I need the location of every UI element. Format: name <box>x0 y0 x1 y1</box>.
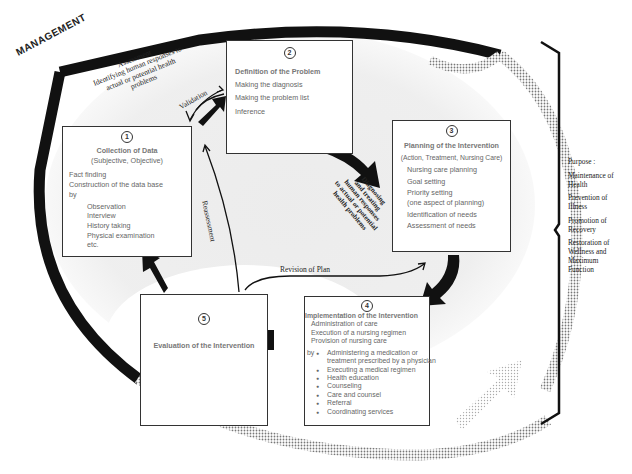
step-5-evaluation-of-intervention: 5 Evaluation of the Intervention <box>140 294 268 426</box>
method-item: Interview <box>87 211 185 221</box>
step-number-badge: 3 <box>397 125 506 137</box>
step-line: by <box>69 190 185 200</box>
step-line: Provision of nursing care <box>311 337 427 345</box>
step-title: Collection of Data <box>69 146 185 156</box>
step-line: Nursing care planning <box>407 165 506 175</box>
step-line: Goal setting <box>407 177 506 187</box>
step-number-badge: 1 <box>69 131 185 143</box>
step-line: Construction of the data base <box>69 180 185 190</box>
step-line: Inference <box>235 107 344 117</box>
method-item: etc. <box>87 240 185 250</box>
step-subtitle: (Action, Treatment, Nursing Care) <box>397 153 506 162</box>
step-line: Identification of needs <box>407 210 506 220</box>
step-line: (one aspect of planning) <box>407 198 506 208</box>
step-title: Planning of the Intervention <box>397 141 506 151</box>
implementation-methods-list: Administering a medication or treatment … <box>307 349 427 416</box>
method-bullet: Care and counsel <box>313 391 427 399</box>
step-number-badge: 4 <box>307 300 427 312</box>
method-bullet: Referral <box>313 399 427 407</box>
method-bullet: Counseling <box>313 382 427 390</box>
step-4-implementation-of-intervention: 4 Implementation of the Intervention Adm… <box>304 296 430 426</box>
purpose-list: Purpose : Maintenance of Health Preventi… <box>568 158 628 274</box>
method-bullet: Health education <box>313 374 427 382</box>
nursing-process-diagram: MANAGEMENT Assessment Identifying human … <box>0 0 632 474</box>
purpose-item: Prevention of Illness <box>568 194 620 212</box>
step-subtitle: (Subjective, Objective) <box>69 156 185 166</box>
method-item: History taking <box>87 221 185 231</box>
purpose-item: Promotion of Recovery <box>568 217 628 235</box>
method-bullet: Administering a medication or treatment … <box>313 349 437 366</box>
step-line: Administration of care <box>311 320 427 328</box>
method-item: Physical examination <box>87 231 185 241</box>
purpose-heading: Purpose : <box>568 158 628 167</box>
revision-of-plan-label: Revision of Plan <box>280 265 330 274</box>
step-title: Implementation of the Intervention <box>305 312 427 320</box>
step-line: Fact finding <box>69 170 185 180</box>
step-1-collection-of-data: 1 Collection of Data (Subjective, Object… <box>62 126 192 257</box>
step-number-badge: 5 <box>147 313 261 325</box>
step-title: Evaluation of the Intervention <box>147 341 261 351</box>
method-bullet: Coordinating services <box>313 408 427 416</box>
step-line: Making the diagnosis <box>235 80 344 90</box>
step-title: Definition of the Problem <box>235 67 344 77</box>
step-number-badge: 2 <box>235 47 344 59</box>
step-3-planning-of-intervention: 3 Planning of the Intervention (Action, … <box>392 120 511 252</box>
method-bullet: Executing a medical regimen <box>313 366 427 374</box>
step-line: Assessment of needs <box>407 221 506 231</box>
step-line: Execution of a nursing regimen <box>311 329 427 337</box>
purpose-item: Restoration of Wellness and Maximum Func… <box>568 239 620 274</box>
method-item: Observation <box>87 202 185 212</box>
step-2-definition-of-problem: 2 Definition of the Problem Making the d… <box>226 40 353 154</box>
purpose-item: Maintenance of Health <box>568 172 628 190</box>
step-line: Priority setting <box>407 188 506 198</box>
step-line: Making the problem list <box>235 93 344 103</box>
